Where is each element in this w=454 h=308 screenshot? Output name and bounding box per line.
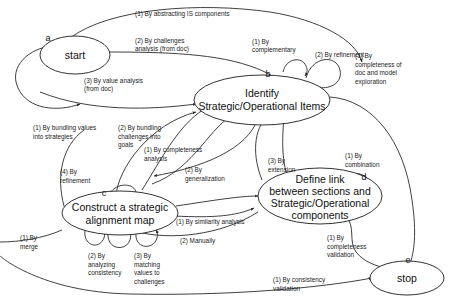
node-define-label-line1: Define link	[295, 173, 345, 185]
node-start-label: start	[65, 49, 86, 61]
state-letter-d: d	[361, 172, 366, 182]
node-define-label-line3: Strategic/Operational	[271, 197, 370, 209]
label-refinement-construct: (4) By refinement	[60, 168, 90, 184]
node-define-label-line4: components	[291, 209, 348, 221]
label-complementary: (1) By complementary	[252, 38, 296, 54]
state-letter-e: e	[405, 255, 410, 265]
state-letter-b: b	[265, 69, 270, 79]
label-value-analysis-from-doc: (3) By value analysis (from doc)	[84, 77, 145, 93]
node-identify-label-line2: Strategic/Operational Items	[198, 100, 325, 112]
label-matching-values-to-challenges: (3) By matching values to challenges	[134, 252, 165, 286]
node-construct-label-line1: Construct a strategic	[72, 201, 168, 213]
label-completeness-validation: (1) By completeness validation	[327, 234, 368, 258]
label-bundling-values-into-strategies: (1) By bundling values into strategies	[33, 124, 98, 141]
edge-construct-to-define-similarity	[176, 196, 258, 206]
label-consistency-validation: (1) By consistency validation	[273, 276, 327, 292]
label-challenges-analysis-from-doc: (2) By challenges analysis (from doc)	[135, 37, 189, 53]
label-completeness-analysis: (1) By completeness analysis	[144, 146, 204, 163]
label-combination: (1) By combination	[345, 152, 380, 168]
node-construct[interactable]	[62, 191, 178, 235]
node-identify-label-line1: Identify	[245, 87, 280, 99]
label-manually: (2) Manually	[180, 237, 216, 245]
edge-identify-self-loop-complementary	[283, 60, 307, 76]
state-letter-c: c	[102, 188, 107, 198]
label-similarity-analysis: (1) By similarity analysis	[176, 218, 245, 226]
edge-construct-to-define-manually	[174, 208, 254, 217]
state-letter-a: a	[45, 33, 50, 43]
edge-start-to-identify-value-analysis	[40, 92, 196, 108]
node-define-label-line2: between sections and	[269, 185, 371, 197]
node-construct-label-line2: alignment map	[86, 214, 155, 226]
label-merge: (1) By merge	[20, 234, 39, 251]
node-stop-label: stop	[397, 272, 417, 284]
label-completeness-of-doc-and-model-exploration: (1) By completeness of doc and model exp…	[355, 52, 403, 86]
label-generalization: (2) By generalization	[185, 166, 225, 183]
label-analyzing-consistency: (2) By analyzing consistency	[88, 252, 122, 277]
label-abstracting-is-components: (1) By abstracting IS components	[135, 10, 229, 18]
label-extension: (3) By extension	[268, 157, 296, 173]
diagram-canvas: start a Identify Strategic/Operational I…	[0, 0, 454, 308]
state-transition-diagram: start a Identify Strategic/Operational I…	[0, 0, 454, 308]
